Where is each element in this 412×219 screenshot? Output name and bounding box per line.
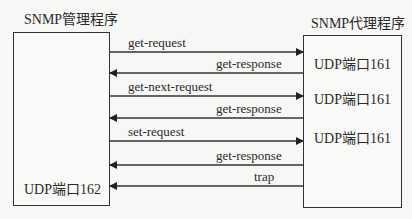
- message-label: get-response: [216, 101, 282, 117]
- message-label: trap: [254, 169, 274, 185]
- arrows-layer: [0, 0, 412, 219]
- message-label: get-request: [128, 35, 186, 51]
- message-label: get-response: [216, 148, 282, 164]
- snmp-message-diagram: SNMP管理程序 SNMP代理程序 UDP端口162 UDP端口161 UDP端…: [0, 0, 412, 219]
- message-label: get-response: [216, 56, 282, 72]
- message-label: set-request: [128, 124, 184, 140]
- message-label: get-next-request: [128, 79, 212, 95]
